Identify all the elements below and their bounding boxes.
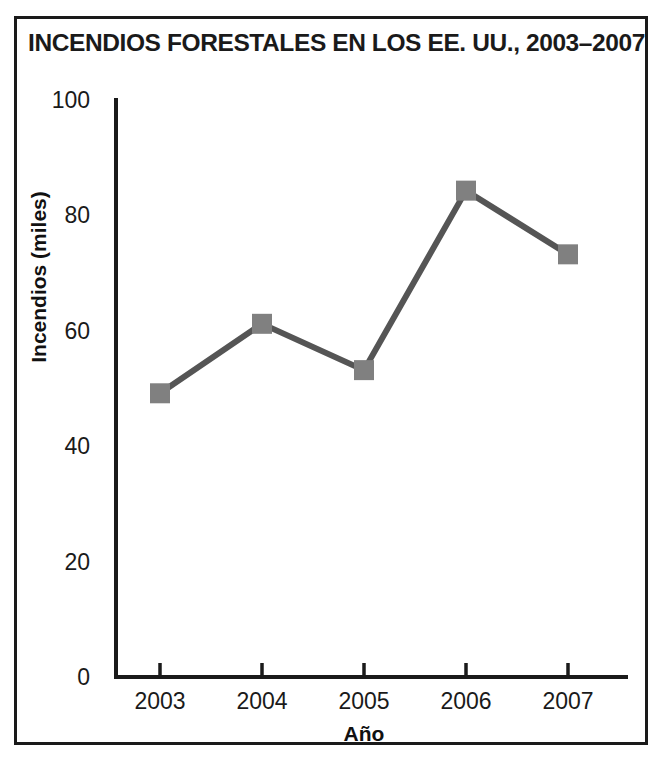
figure-container: INCENDIOS FORESTALES EN LOS EE. UU., 200…: [0, 0, 662, 761]
chart-canvas: [0, 0, 662, 761]
series-markers: [150, 181, 578, 404]
axes-group: [114, 98, 628, 677]
data-point-2003: [150, 383, 170, 403]
plot-area: Incendios (miles) Año 100 80 60 40 20 0 …: [0, 0, 662, 761]
data-point-2004: [252, 314, 272, 334]
data-point-2006: [456, 181, 476, 201]
data-point-2005: [354, 360, 374, 380]
data-series-incendios: [150, 181, 578, 404]
x-tick-marks: [160, 663, 568, 677]
data-point-2007: [558, 244, 578, 264]
